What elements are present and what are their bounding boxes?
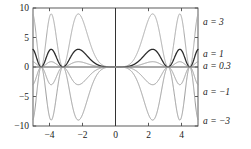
x-tick-label: −4 — [44, 130, 54, 140]
y-tick-label: 0 — [24, 62, 29, 72]
y-tick-label: −10 — [14, 121, 29, 131]
legend-label-2: a = 0.3 — [203, 62, 231, 72]
legend-label-4: a = −3 — [203, 117, 230, 127]
legend-label-0: a = 3 — [203, 18, 224, 28]
y-tick-label: 10 — [20, 3, 30, 13]
x-tick-label: 2 — [146, 130, 151, 140]
x-tick-label: 4 — [179, 130, 184, 140]
chart-figure: −4−2024−10−50510 a = 3a = 1a = 0.3a = −1… — [0, 0, 251, 149]
x-tick-label: 0 — [113, 130, 118, 140]
legend-label-3: a = −1 — [203, 88, 230, 98]
legend-label-1: a = 1 — [203, 50, 224, 60]
y-tick-label: 5 — [24, 33, 29, 43]
y-tick-label: −5 — [19, 92, 29, 102]
x-tick-label: −2 — [77, 130, 87, 140]
